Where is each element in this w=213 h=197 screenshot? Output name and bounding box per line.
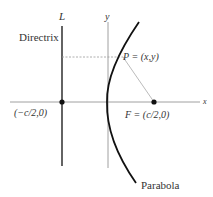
x-axis-label: x	[203, 98, 207, 106]
point-p-label: P = (x,y)	[123, 52, 159, 62]
distance-to-focus-line	[123, 57, 154, 102]
parabola-curve	[107, 22, 139, 183]
diagram-graphics	[0, 0, 213, 197]
focus-label: F = (c/2,0)	[125, 110, 169, 120]
directrix-line-label: L	[59, 11, 65, 22]
directrix-point-dot	[59, 99, 64, 104]
y-axis-label: y	[105, 12, 109, 22]
parabola-label: Parabola	[141, 180, 179, 191]
directrix-label: Directrix	[19, 32, 59, 43]
focus-dot	[151, 99, 156, 104]
parabola-diagram: L Directrix y x P = (x,y) F = (c/2,0) (−…	[0, 0, 213, 197]
directrix-point-label: (−c/2,0)	[14, 108, 47, 118]
